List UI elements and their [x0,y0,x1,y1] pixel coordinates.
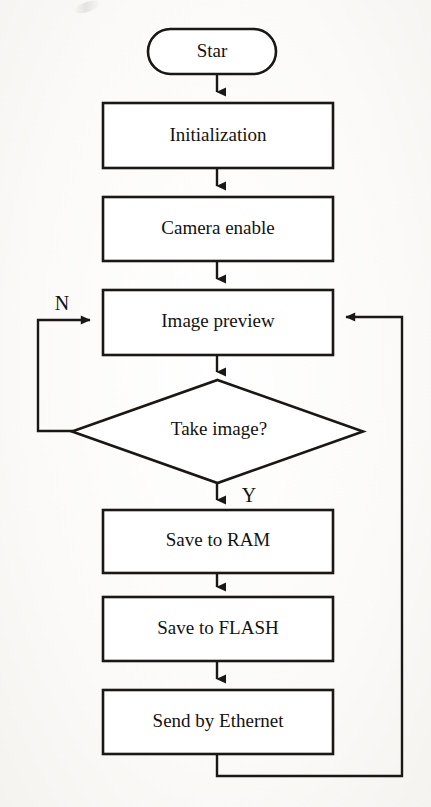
edge-take-image-no-loop [38,320,90,431]
initialization-label: Initialization [169,124,267,145]
camera-enable-label: Camera enable [161,217,274,238]
node-save-to-flash[interactable]: Save to FLASH [103,597,333,661]
node-camera-enable[interactable]: Camera enable [103,197,333,261]
flowchart-canvas: Star Initialization Camera enable Image … [0,0,431,807]
flowchart-page: Star Initialization Camera enable Image … [0,0,431,807]
node-send-by-ethernet[interactable]: Send by Ethernet [103,690,333,754]
image-preview-label: Image preview [161,310,275,331]
node-image-preview[interactable]: Image preview [103,290,333,355]
send-by-ethernet-label: Send by Ethernet [153,710,285,731]
no-branch-label: N [55,292,69,314]
save-to-flash-label: Save to FLASH [157,617,279,638]
start-label: Star [197,40,228,61]
save-to-ram-label: Save to RAM [166,529,271,550]
node-start[interactable]: Star [148,29,276,74]
node-initialization[interactable]: Initialization [103,103,333,168]
node-save-to-ram[interactable]: Save to RAM [103,510,333,573]
take-image-label: Take image? [171,418,267,439]
yes-branch-label: Y [242,484,256,506]
node-take-image[interactable]: Take image? [72,380,363,483]
